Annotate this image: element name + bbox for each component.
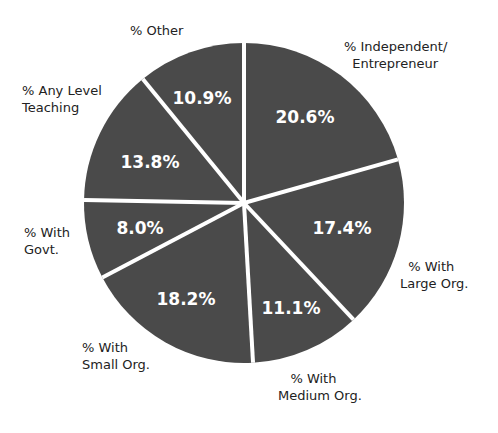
label-medium: % With Medium Org. (278, 370, 362, 404)
label-small: % With Small Org. (82, 339, 150, 373)
label-other: % Other (130, 22, 183, 39)
value-small: 18.2% (157, 289, 216, 309)
value-teaching: 13.8% (121, 152, 180, 172)
value-govt: 8.0% (116, 218, 163, 238)
label-teaching: % Any Level Teaching (22, 82, 102, 116)
value-medium: 11.1% (262, 298, 321, 318)
value-independent: 20.6% (276, 107, 335, 127)
label-govt: % With Govt. (24, 224, 70, 258)
label-independent: % Independent/ Entrepreneur (344, 38, 447, 72)
value-large: 17.4% (313, 218, 372, 238)
label-large: % With Large Org. (400, 258, 468, 292)
value-other: 10.9% (173, 88, 232, 108)
